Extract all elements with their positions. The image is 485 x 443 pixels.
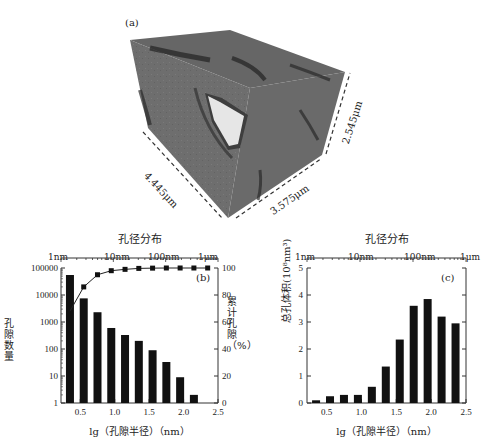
bar [162,362,170,403]
svg-text:1.5: 1.5 [144,407,156,417]
svg-text:10: 10 [49,371,59,381]
svg-text:4: 4 [299,290,304,300]
line-marker [81,284,86,289]
line-marker [136,266,141,271]
panel-c: 孔径分布 1nm 10nm 100nm 1μm 0123450.51.01.52… [240,228,485,443]
bar [312,400,320,403]
cumulative-line [70,268,208,311]
line-marker [109,268,114,273]
panel-b: 孔径分布 1nm 10nm 100nm 1μm 1101001000100001… [0,228,240,443]
svg-text:1.0: 1.0 [356,407,368,417]
chart-c-panel-label: (c) [441,272,454,283]
bar [80,298,88,403]
svg-text:2.5: 2.5 [212,407,224,417]
line-marker [205,266,210,271]
chart-c-plot: 0123450.51.01.52.02.5 [240,228,485,443]
bar [340,395,348,403]
svg-text:0.5: 0.5 [75,407,87,417]
bar [368,387,376,403]
panel-a: (a) 4.445μm 3.575μm 2.545μm [0,0,485,228]
svg-text:100: 100 [222,263,236,273]
bar [176,377,184,403]
chart-b-xlabel: lg（孔隙半径）（nm） [61,423,218,438]
bar [438,317,446,403]
svg-text:1: 1 [299,371,304,381]
svg-text:1.0: 1.0 [109,407,121,417]
svg-text:2: 2 [299,344,304,354]
line-marker [150,266,155,271]
svg-text:2.0: 2.0 [426,407,438,417]
svg-text:2.0: 2.0 [178,407,190,417]
chart-b-panel-label: (b) [196,272,210,283]
bar [149,350,157,403]
panel-a-label: (a) [125,17,139,28]
svg-text:0: 0 [299,398,304,408]
svg-text:1000: 1000 [40,317,59,327]
bar [66,275,74,403]
line-marker [123,267,128,272]
bar [107,328,115,403]
chart-c-ylabel: 总孔体积(10⁸nm³) [278,239,293,323]
bar [354,395,362,403]
line-marker [95,272,100,277]
line-marker [164,266,169,271]
bar [396,340,404,403]
svg-text:3: 3 [299,317,304,327]
line-marker [191,266,196,271]
bar [135,341,143,403]
svg-text:10000: 10000 [36,290,59,300]
bar [424,299,432,403]
bar [326,396,334,403]
chart-b-plot: 1101001000100001000000204060801000.51.01… [0,228,240,443]
chart-c-xlabel: lg（孔隙半径）（nm） [307,423,466,438]
chart-b-ylabel: 孔隙数量 [4,318,18,362]
bar [93,312,101,403]
bar [121,335,129,403]
bar [452,323,460,403]
svg-text:1.5: 1.5 [391,407,403,417]
svg-text:1: 1 [54,398,59,408]
bar [382,367,390,403]
svg-text:2.5: 2.5 [460,407,472,417]
svg-text:100000: 100000 [31,263,59,273]
svg-text:100: 100 [45,344,59,354]
chart-b-y2label: 累计孔隙（%） [227,296,241,351]
line-marker [178,266,183,271]
svg-text:20: 20 [222,371,232,381]
bar [190,395,198,403]
svg-text:5: 5 [299,263,304,273]
svg-text:0.5: 0.5 [321,407,333,417]
bar [410,306,418,403]
rock-cube-render [0,0,485,228]
